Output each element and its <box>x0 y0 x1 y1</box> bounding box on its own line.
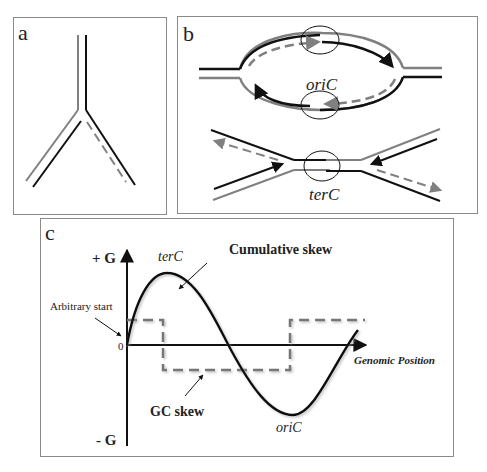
label-zero: 0 <box>118 341 124 352</box>
label-cumulative-skew: Cumulative skew <box>229 243 332 257</box>
label-oric-b: oriC <box>306 76 337 93</box>
gc-pointer <box>185 375 203 396</box>
label-y-positive: + G <box>92 251 116 266</box>
start-pointer <box>95 318 121 336</box>
label-arbitrary-start: Arbitrary start <box>50 301 113 312</box>
replication-bubble-oric <box>199 26 442 119</box>
label-terc-c: terC <box>158 250 183 264</box>
replication-fork <box>26 35 135 187</box>
label-terc-b: terC <box>309 186 339 203</box>
label-gc-skew: GC skew <box>150 405 204 419</box>
label-y-negative: - G <box>96 433 116 448</box>
label-oric-c: oriC <box>276 421 302 435</box>
skew-chart <box>95 250 366 446</box>
label-genomic-position: Genomic Position <box>354 355 435 366</box>
diagram-canvas <box>0 0 487 472</box>
